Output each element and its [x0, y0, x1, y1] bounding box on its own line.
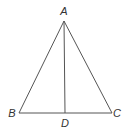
- segment-ab: [19, 21, 64, 113]
- vertex-label-a: A: [59, 5, 67, 17]
- segment-ac: [64, 21, 112, 113]
- segment-ad: [64, 21, 65, 113]
- vertex-label-c: C: [113, 107, 121, 119]
- diagram-canvas: A B C D: [0, 0, 133, 130]
- segments: [19, 21, 112, 113]
- triangle-diagram: A B C D: [0, 0, 133, 130]
- vertex-label-d: D: [61, 117, 69, 129]
- vertex-label-b: B: [8, 107, 15, 119]
